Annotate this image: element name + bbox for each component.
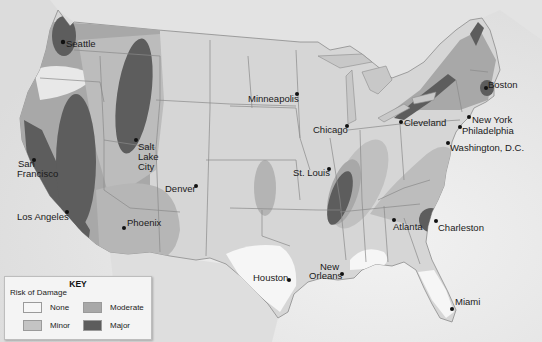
city-label-cleveland: Cleveland — [404, 117, 446, 128]
key-item-none: None — [23, 302, 69, 313]
city-label-minneapolis: Minneapolis — [248, 93, 299, 104]
city-label-salt-lake-3: City — [138, 161, 155, 172]
swatch-major — [83, 320, 102, 331]
city-label-miami: Miami — [455, 296, 480, 307]
key-item-major: Major — [83, 320, 130, 331]
key-item-minor: Minor — [23, 320, 70, 331]
city-label-washington: Washington, D.C. — [450, 142, 524, 153]
city-label-charleston: Charleston — [438, 222, 484, 233]
city-label-san-francisco-2: Francisco — [17, 168, 58, 179]
city-label-los-angeles: Los Angeles — [17, 211, 69, 222]
key-item-moderate: Moderate — [83, 302, 144, 313]
city-label-atlanta: Atlanta — [393, 221, 423, 232]
city-label-chicago: Chicago — [313, 124, 348, 135]
swatch-moderate — [83, 302, 102, 313]
city-dot-phoenix — [122, 226, 126, 230]
zone-minor-oklahoma — [254, 160, 276, 216]
city-label-boston: Boston — [488, 79, 518, 90]
city-label-houston: Houston — [253, 272, 288, 283]
us-earthquake-risk-map: Seattle San Francisco Los Angeles Salt L… — [0, 0, 542, 342]
city-label-new-york: New York — [472, 114, 512, 125]
map-key: KEY Risk of Damage None Minor Moderate M… — [4, 276, 152, 340]
city-label-st-louis: St. Louis — [293, 167, 330, 178]
key-label-none: None — [50, 303, 69, 312]
key-label-major: Major — [110, 321, 130, 330]
city-dot-miami — [450, 307, 454, 311]
swatch-none — [23, 302, 42, 313]
key-label-moderate: Moderate — [110, 303, 144, 312]
city-dot-cleveland — [399, 120, 403, 124]
key-subtitle: Risk of Damage — [10, 288, 67, 297]
key-label-minor: Minor — [50, 321, 70, 330]
city-label-new-orleans-2: Orleans — [309, 270, 343, 281]
city-dot-new-york — [467, 115, 471, 119]
city-label-seattle: Seattle — [66, 38, 96, 49]
city-label-phoenix: Phoenix — [127, 217, 162, 228]
swatch-minor — [23, 320, 42, 331]
city-dot-seattle — [61, 40, 65, 44]
city-label-philadelphia: Philadelphia — [462, 125, 514, 136]
city-label-denver: Denver — [165, 183, 196, 194]
